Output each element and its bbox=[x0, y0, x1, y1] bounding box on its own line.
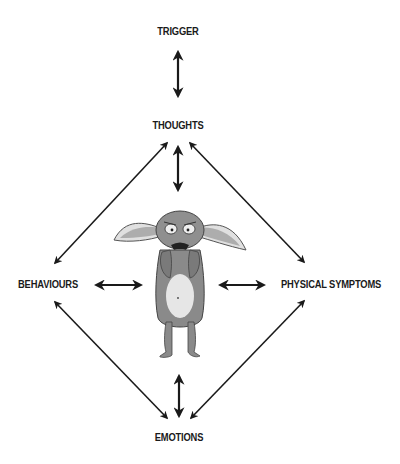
creature-belly bbox=[166, 274, 194, 318]
node-emotions: EMOTIONS bbox=[149, 431, 209, 443]
arrow-physical-emotions bbox=[191, 301, 304, 418]
arrow-thoughts-behaviours bbox=[55, 143, 167, 263]
node-trigger: TRIGGER bbox=[154, 25, 202, 37]
creature-left-leg bbox=[160, 322, 172, 357]
node-behaviours: BEHAVIOURS bbox=[16, 278, 81, 290]
arrow-behaviours-emotions bbox=[55, 302, 167, 418]
node-physical-symptoms: PHYSICAL SYMPTOMS bbox=[277, 278, 384, 290]
arrow-thoughts-physical bbox=[190, 143, 304, 262]
arrows-layer bbox=[0, 0, 400, 464]
diagram-canvas: TRIGGER THOUGHTS BEHAVIOURS PHYSICAL SYM… bbox=[0, 0, 400, 464]
node-thoughts: THOUGHTS bbox=[148, 119, 208, 131]
creature-right-leg bbox=[188, 322, 200, 357]
